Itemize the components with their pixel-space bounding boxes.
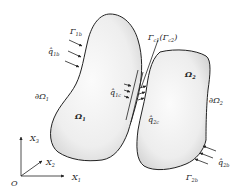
boundary-1-label: ∂Ω1 bbox=[35, 92, 49, 102]
gamma-1b-label: Γ1b bbox=[69, 27, 82, 37]
x2-axis bbox=[21, 161, 42, 176]
x2-label: X2 bbox=[45, 158, 55, 168]
body1-region bbox=[51, 14, 142, 161]
boundary-2-label: ∂Ω2 bbox=[209, 96, 223, 106]
body1-flux-arrows bbox=[65, 40, 82, 67]
origin-label: O bbox=[11, 179, 18, 188]
gamma-2b-label: Γ2b bbox=[185, 173, 198, 183]
x3-label: X3 bbox=[29, 134, 39, 144]
q-1b-label: q̂1b bbox=[48, 47, 60, 57]
q-2b-label: q̂2b bbox=[218, 158, 230, 168]
contact-gamma-label: Γc1(Γc2) bbox=[147, 33, 177, 43]
contact-diagram: Γ1b q̂1b ∂Ω1 Ω1 q̂1c Γc1(Γc2) Ω2 ∂Ω2 q̂2… bbox=[0, 0, 240, 194]
x1-label: X1 bbox=[71, 173, 81, 183]
